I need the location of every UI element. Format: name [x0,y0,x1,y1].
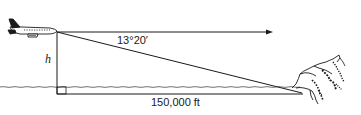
diagonal-line-of-sight [57,32,302,93]
horizontal-line-of-sight [57,30,273,35]
angle-of-depression-label: 13°20′ [117,35,148,46]
arrowhead-icon [266,30,273,35]
airplane-icon [8,19,57,37]
water-surface [0,87,300,88]
height-label: h [45,53,51,65]
distance-label: 150,000 ft [151,97,200,108]
cliff-icon [292,55,345,104]
right-angle-marker [57,87,66,94]
